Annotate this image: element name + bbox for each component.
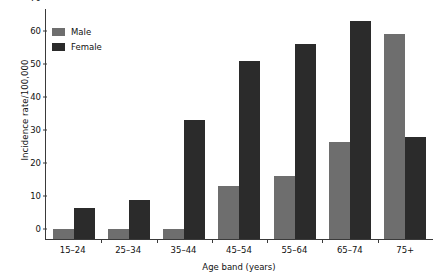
y-axis-tick-label: 30 [30,125,46,135]
bar-male [108,229,129,239]
x-axis-tick-label: 45–54 [211,245,266,255]
x-axis-tick [212,239,213,243]
y-axis-title: Incidence rate/100,000 [20,20,30,200]
bar-male [274,176,295,239]
bar-male [218,186,239,239]
bar-female [184,120,205,239]
x-axis-tick-label: 55–64 [267,245,322,255]
bar-female [350,21,371,239]
plot-area: 010203040506070 [45,9,433,240]
legend: Male Female [52,25,102,55]
bar-female [74,208,95,239]
y-axis-tick-label: 10 [30,191,46,201]
x-axis-tick-labels: 15–2425–3435–4445–5455–6465–7475+ [45,245,433,255]
x-axis-tick [267,239,268,243]
bar-group [101,9,156,239]
bar-female [405,137,426,239]
legend-label-female: Female [71,42,102,52]
y-axis-tick-label: 60 [30,26,46,36]
legend-label-male: Male [71,27,91,37]
x-axis-tick [378,239,379,243]
bar-group [212,9,267,239]
legend-swatch-female-icon [52,43,65,51]
x-axis-tick-label: 25–34 [100,245,155,255]
legend-item-female: Female [52,40,102,53]
bar-female [239,61,260,239]
bar-female [295,44,316,239]
bar-group [322,9,377,239]
x-axis-tick [101,239,102,243]
x-axis-tick-label: 35–44 [156,245,211,255]
y-axis-tick-label: 20 [30,158,46,168]
y-axis-tick-label: 0 [36,224,46,234]
x-axis-tick [322,239,323,243]
x-axis-tick-label: 15–24 [45,245,100,255]
bar-male [384,34,405,239]
bar-groups [46,9,433,239]
bar-group [378,9,433,239]
incidence-rate-bar-chart: Incidence rate/100,000 010203040506070 1… [0,0,435,279]
legend-swatch-male-icon [52,28,65,36]
bar-male [53,229,74,239]
bar-group [157,9,212,239]
x-axis-title: Age band (years) [45,262,433,272]
x-axis-tick [157,239,158,243]
y-axis-tick-label: 70 [30,0,46,3]
bar-female [129,200,150,239]
bar-group [267,9,322,239]
bar-male [329,142,350,239]
y-axis-tick-label: 40 [30,92,46,102]
bar-male [163,229,184,239]
x-axis-tick-label: 65–74 [322,245,377,255]
legend-item-male: Male [52,25,102,38]
y-axis-tick-label: 50 [30,59,46,69]
x-axis-tick-label: 75+ [378,245,433,255]
